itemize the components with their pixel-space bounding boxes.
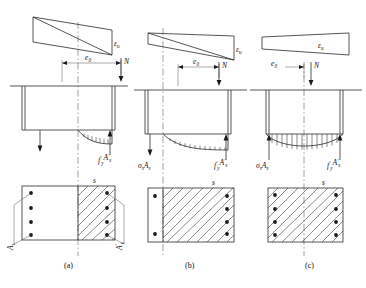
ecc-label-a: e0 (85, 53, 91, 63)
panel-a: εu e0 N (6, 17, 130, 270)
panel-c: εu e0 N (250, 33, 362, 270)
hatch-region-b (163, 188, 234, 242)
rebar-dot (153, 232, 157, 236)
rebar-dot (273, 233, 277, 237)
force-arrow-left-a (38, 130, 43, 152)
diagram-svg: εu e0 N (0, 0, 366, 288)
caption-b: (b) (185, 261, 195, 270)
stress-block-a (78, 130, 112, 144)
strain-diagram-b (148, 33, 234, 60)
panel-b: εu e0 N (134, 28, 247, 270)
section-width-label-b: s (212, 178, 215, 187)
load-arrow-a (119, 58, 124, 82)
cross-section-a (14, 186, 124, 244)
load-label-c: N (313, 61, 320, 70)
section-elevation-b (134, 90, 247, 134)
rebar-label-right-a: A′s (114, 242, 124, 251)
stress-block-b (163, 134, 228, 150)
eccentricity-dim-b (178, 64, 219, 86)
force-label-right-b: f′yA′s (214, 158, 227, 171)
strain-label-a: εu (114, 39, 120, 49)
force-label-left-c: σsAs (256, 161, 268, 171)
hatch-region-a (78, 186, 115, 240)
strain-diagram-c (262, 33, 349, 55)
force-arrow-left-b (148, 134, 153, 156)
load-label-b: N (221, 61, 228, 70)
eccentricity-dim-c (285, 64, 304, 78)
ecc-label-c: e0 (271, 59, 277, 69)
eccentricity-dim-a (62, 60, 121, 82)
rebar-dot (334, 233, 338, 237)
rebar-dot (273, 220, 277, 224)
figure-container: εu e0 N (0, 0, 366, 288)
rebar-dot (334, 220, 338, 224)
hatch-region-c (268, 188, 343, 242)
cross-section-b (148, 188, 234, 242)
section-elevation-a (10, 86, 128, 130)
load-label-a: N (123, 57, 130, 66)
section-width-label-a: s (93, 176, 96, 185)
strain-label-c: εu (318, 41, 324, 51)
cross-section-c (268, 188, 343, 242)
load-arrow-b (217, 62, 222, 86)
rebar-dot (29, 206, 33, 210)
stress-block-c (266, 134, 343, 150)
strain-label-b: εu (236, 45, 242, 55)
rebar-dot (225, 232, 229, 236)
rebar-dot (334, 193, 338, 197)
rebar-label-left-a: As (6, 243, 16, 251)
rebar-dot (273, 193, 277, 197)
rebar-dot (225, 220, 229, 224)
caption-c: (c) (305, 261, 314, 270)
rebar-dot (225, 207, 229, 211)
force-label-right-a: f′yA′s (98, 153, 111, 166)
rebar-dot (225, 194, 229, 198)
rebar-dot (105, 206, 109, 210)
rebar-dot (334, 207, 338, 211)
rebar-dot (29, 220, 33, 224)
force-label-right-c: f′yA′s (327, 158, 340, 171)
load-arrow-c (309, 62, 314, 86)
strain-diagram-a (33, 17, 112, 55)
caption-a: (a) (64, 261, 73, 270)
rebar-dot (153, 194, 157, 198)
force-label-left-b: σsAs (138, 161, 150, 171)
rebar-dot (273, 207, 277, 211)
section-elevation-c (250, 90, 362, 134)
rebar-dot (105, 220, 109, 224)
ecc-label-b: e0 (193, 57, 199, 67)
section-width-label-c: s (322, 178, 325, 187)
